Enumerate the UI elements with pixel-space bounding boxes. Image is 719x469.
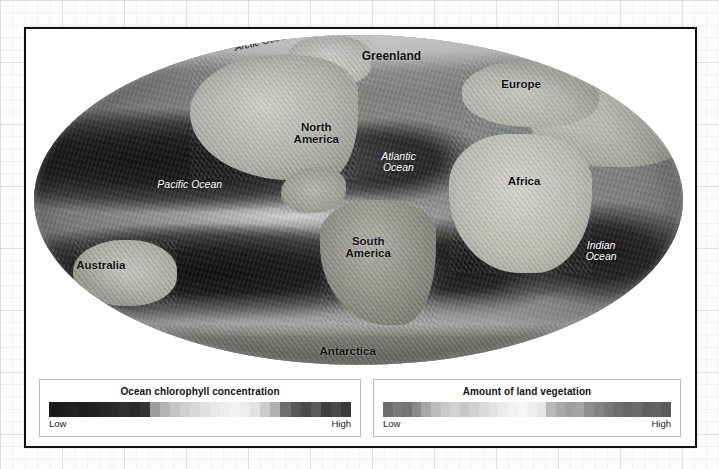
legend-ocean-color-ramp [49, 402, 351, 417]
legend-ocean-swatch [150, 402, 160, 417]
legend-ocean-swatch [99, 402, 109, 417]
legend-land-swatch [469, 402, 479, 417]
legend-ocean-swatch [210, 402, 220, 417]
legend-ocean-swatch [311, 402, 321, 417]
world-map: Arctic Ocean Greenland Europe North Amer… [26, 29, 691, 369]
legend-ocean-swatch [230, 402, 240, 417]
globe-wrapper: Arctic Ocean Greenland Europe North Amer… [34, 35, 683, 365]
legend-land-swatch [441, 402, 451, 417]
legend-ocean-swatch [250, 402, 260, 417]
legend-land-swatch [527, 402, 537, 417]
legend-land-swatch [642, 402, 652, 417]
legend-land-swatch [450, 402, 460, 417]
legend-land-swatch [546, 402, 556, 417]
legend-ocean-swatch [341, 402, 351, 417]
legend-land-swatch [412, 402, 422, 417]
legend-ocean-swatch [109, 402, 119, 417]
legend-land-vegetation: Amount of land vegetation Low High [373, 379, 681, 437]
legend-land-swatch [584, 402, 594, 417]
map-label-greenland: Greenland [362, 50, 421, 63]
map-label-africa: Africa [508, 175, 541, 187]
legend-land-swatch [661, 402, 671, 417]
legend-land-swatch [393, 402, 403, 417]
legend-land-swatch [594, 402, 604, 417]
legend-ocean-swatch [291, 402, 301, 417]
map-label-atlantic-ocean: Atlantic Ocean [381, 151, 415, 173]
legend-land-high-label: High [651, 418, 671, 429]
legend-land-swatch [565, 402, 575, 417]
legend-ocean-swatch [130, 402, 140, 417]
map-label-north-america-line2: America [294, 133, 339, 145]
mollweide-globe: Arctic Ocean Greenland Europe North Amer… [34, 35, 683, 365]
legend-ocean-swatch [79, 402, 89, 417]
legend-ocean-swatch [260, 402, 270, 417]
legend-ocean-swatch [69, 402, 79, 417]
legend-ocean-swatch [321, 402, 331, 417]
legend-ocean-title: Ocean chlorophyll concentration [40, 386, 360, 397]
map-label-south-america: South America [346, 235, 391, 259]
legend-ocean-swatch [240, 402, 250, 417]
legend-ocean-swatch [200, 402, 210, 417]
map-label-south-america-line2: America [346, 247, 391, 259]
map-label-atlantic-ocean-line2: Ocean [381, 162, 415, 173]
legend-land-swatch [652, 402, 662, 417]
legend-land-swatch [632, 402, 642, 417]
legend-land-title: Amount of land vegetation [374, 386, 680, 397]
legend-land-swatch [460, 402, 470, 417]
legend-land-swatch [479, 402, 489, 417]
legend-ocean-high-label: High [331, 418, 351, 429]
map-label-atlantic-ocean-line1: Atlantic [381, 151, 415, 162]
map-label-australia: Australia [76, 259, 125, 271]
legend-land-swatch [489, 402, 499, 417]
legend-land-low-label: Low [383, 418, 400, 429]
legend-land-swatch [383, 402, 393, 417]
legend-ocean-swatch [270, 402, 280, 417]
map-label-indian-ocean-line2: Ocean [586, 251, 617, 262]
legend-land-swatch [604, 402, 614, 417]
legend-ocean-swatch [49, 402, 59, 417]
legend-land-swatch [517, 402, 527, 417]
legend-land-swatch [402, 402, 412, 417]
legend-ocean-swatch [301, 402, 311, 417]
legend-ocean-swatch [140, 402, 150, 417]
legend-land-swatch [431, 402, 441, 417]
legend-ocean-low-label: Low [49, 418, 66, 429]
map-label-europe: Europe [501, 78, 541, 90]
legend-ocean-swatch [220, 402, 230, 417]
map-label-north-america: North America [294, 121, 339, 145]
legend-ocean-chlorophyll: Ocean chlorophyll concentration Low High [39, 379, 361, 437]
legend-ocean-swatch [190, 402, 200, 417]
legend-ocean-swatch [119, 402, 129, 417]
map-label-north-america-line1: North [294, 121, 339, 133]
legend-land-swatch [537, 402, 547, 417]
legend-ocean-swatch [160, 402, 170, 417]
legend-land-swatch [498, 402, 508, 417]
legend-ocean-swatch [170, 402, 180, 417]
legend-land-swatch [556, 402, 566, 417]
legend-ocean-swatch [280, 402, 290, 417]
map-label-indian-ocean: Indian Ocean [586, 240, 617, 262]
legend-ocean-swatch [331, 402, 341, 417]
legend-land-swatch [421, 402, 431, 417]
legend-land-swatch [508, 402, 518, 417]
legend-land-swatch [575, 402, 585, 417]
legend-ocean-swatch [180, 402, 190, 417]
map-label-south-america-line1: South [346, 235, 391, 247]
globe-shading [34, 35, 683, 365]
legend-ocean-swatch [89, 402, 99, 417]
legend-land-swatch [623, 402, 633, 417]
legend-ocean-swatch [59, 402, 69, 417]
legend-land-swatch [613, 402, 623, 417]
map-label-antarctica: Antarctica [320, 345, 376, 357]
legend-land-color-ramp [383, 402, 671, 417]
map-label-pacific-ocean: Pacific Ocean [157, 179, 222, 190]
figure-panel: Arctic Ocean Greenland Europe North Amer… [24, 27, 697, 448]
